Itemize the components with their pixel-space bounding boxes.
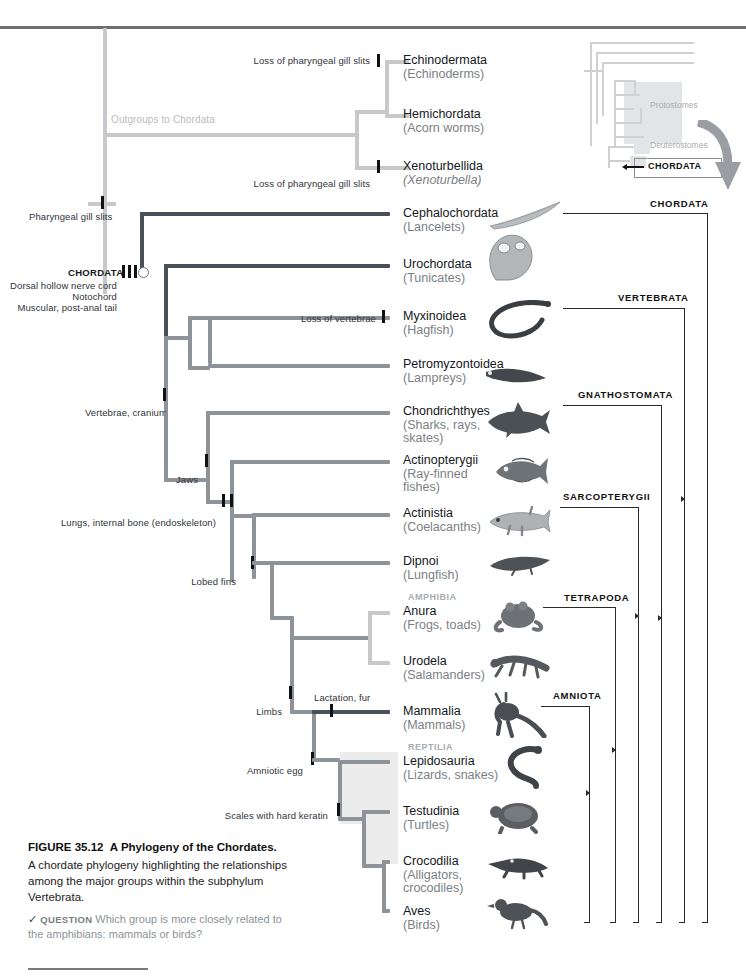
node-dipnoi-tetrapoda: [270, 561, 274, 619]
illustration-hagfish: [482, 300, 552, 342]
inset-pointer-line: [626, 166, 644, 168]
clade-bracket-vertebrata-side: [684, 308, 685, 923]
tick-muscular-post-anal-tail: [134, 265, 137, 278]
synapomorphy-notochord: Notochord: [0, 291, 117, 302]
branch-echino-hemi-stem: [355, 110, 387, 114]
synapomorphy-loss-gill-slits-echino: Loss of pharyngeal gill slits: [120, 55, 370, 66]
illustration-lamprey: [482, 362, 552, 390]
taxon-common: (Acorn worms): [403, 122, 484, 136]
synapomorphy-loss-gill-slits-xeno: Loss of pharyngeal gill slits: [120, 178, 370, 189]
inset-label-protostomes: Protostomes: [650, 100, 698, 110]
synapomorphy-dorsal-hollow-nerve-cord: Dorsal hollow nerve cord: [0, 280, 117, 291]
inset-pointer-arrow-icon: [622, 164, 627, 170]
clade-bracket-vertebrata-foot: [679, 922, 685, 923]
tick-notochord: [128, 265, 131, 278]
branch-lepidosauria: [338, 760, 390, 764]
clade-label-chordata: CHORDATA: [650, 198, 709, 209]
inset-branch: [634, 80, 636, 96]
inset-branch: [614, 94, 640, 96]
inset-branch: [608, 146, 634, 148]
top-divider-rule: [0, 26, 746, 29]
taxon-common: (Lungfish): [403, 569, 459, 583]
branch-sarcopterygii-stem: [230, 514, 254, 518]
taxon-label-cephalochordata: Cephalochordata (Lancelets): [403, 207, 498, 234]
taxon-name: Hemichordata: [403, 107, 481, 121]
inset-root: [584, 70, 604, 72]
branch-cephalochordata: [140, 212, 390, 216]
inset-branch: [614, 80, 636, 82]
taxon-common: (Lizards, snakes): [403, 769, 498, 783]
inset-branch: [608, 146, 610, 168]
caption-title-line: FIGURE 35.12 A Phylogeny of the Chordate…: [28, 840, 296, 855]
branch-echino-hemi-node: [385, 60, 389, 118]
taxon-name: Crocodilia: [403, 854, 459, 868]
clade-label-amniota: AMNIOTA: [553, 690, 602, 701]
tick-internal-bone: [230, 494, 233, 507]
tick-scales-with-hard-keratin: [337, 803, 340, 816]
synapomorphy-muscular-post-anal-tail: Muscular, post-anal tail: [0, 302, 117, 313]
node-osteichthyes: [230, 460, 234, 582]
bottom-divider-rule: [28, 968, 148, 970]
inset-branch: [596, 52, 694, 54]
illustration-mammal-kangaroo: [486, 692, 548, 738]
branch-testudinia: [362, 810, 390, 814]
clade-bracket-vertebrata-top: [563, 308, 684, 309]
caption-figure-number: FIGURE 35.12: [28, 841, 103, 853]
node-amphibia: [368, 611, 372, 663]
taxon-name: Mammalia: [403, 704, 461, 718]
synapomorphy-scales-hard-keratin: Scales with hard keratin: [170, 810, 328, 821]
inset-branch: [614, 108, 634, 110]
inset-protostome-cluster: [624, 82, 682, 144]
clade-bracket-amniota-side: [589, 706, 590, 923]
caption-question-block: ✓ QUESTION Which group is more closely r…: [28, 912, 296, 942]
taxon-label-urochordata: Urochordata (Tunicates): [403, 258, 472, 285]
illustration-coelacanth: [486, 504, 554, 538]
taxon-label-urodela: Urodela (Salamanders): [403, 655, 485, 682]
taxon-common: (Frogs, toads): [403, 619, 481, 633]
branch-dipnoi: [270, 561, 390, 565]
taxon-common: (Ray-finned fishes): [403, 468, 475, 495]
clade-bracket-gnathostomata-top: [563, 405, 661, 406]
taxon-name: Urodela: [403, 654, 447, 668]
taxon-label-chondrichthyes: Chondrichthyes (Sharks, rays, skates): [403, 405, 483, 446]
outgroup-node-bar: [355, 110, 359, 170]
taxon-label-aves: Aves (Birds): [403, 905, 440, 932]
branch-petromyzontoidea: [208, 364, 390, 368]
branch-cyclostome-lower: [188, 366, 210, 370]
branch-mammalia: [312, 710, 390, 714]
chordata-root-label: CHORDATA: [68, 267, 123, 278]
illustration-shark: [484, 400, 552, 442]
synapomorphy-limbs: Limbs: [200, 706, 282, 717]
clade-gnathostomata-tick-icon: [658, 615, 662, 621]
taxon-name: Anura: [403, 604, 436, 618]
clade-amniota-tick-icon: [586, 790, 590, 796]
clade-label-gnathostomata: GNATHOSTOMATA: [578, 389, 673, 400]
group-header-amphibia: AMPHIBIA: [408, 592, 457, 602]
taxon-common: (Xenoturbella): [403, 174, 483, 188]
illustration-ray-finned-fish: [488, 452, 552, 490]
taxon-name: Testudinia: [403, 804, 459, 818]
branch-chondrichthyes: [206, 411, 390, 415]
branch-crocodilia: [382, 860, 390, 864]
node-urochordata-vertebrata: [164, 264, 168, 340]
inset-branch: [614, 136, 644, 138]
chordata-node-bar: [140, 212, 144, 272]
branch-amphibia-stem: [290, 636, 370, 640]
inset-branch: [602, 62, 694, 64]
taxon-label-hemichordata: Hemichordata (Acorn worms): [403, 108, 484, 135]
taxon-name: Aves: [403, 904, 431, 918]
node-osteichthyes-join: [206, 478, 210, 504]
branch-amniota-stem: [290, 710, 314, 714]
clade-bracket-tetrapoda-top: [543, 607, 615, 608]
illustration-lungfish: [486, 552, 554, 578]
taxon-common: (Echinoderms): [403, 68, 487, 82]
reptilia-shade-b: [364, 752, 398, 864]
branch-tetrapoda-stem: [270, 616, 292, 620]
node-vertebrata: [164, 336, 168, 416]
taxon-label-actinistia: Actinistia (Coelacanths): [403, 507, 481, 534]
taxon-label-anura: Anura (Frogs, toads): [403, 605, 481, 632]
taxon-name: Actinopterygii: [403, 453, 478, 467]
branch-actinopterygii: [230, 460, 390, 464]
illustration-salamander: [486, 648, 552, 682]
illustration-bird: [486, 894, 548, 930]
